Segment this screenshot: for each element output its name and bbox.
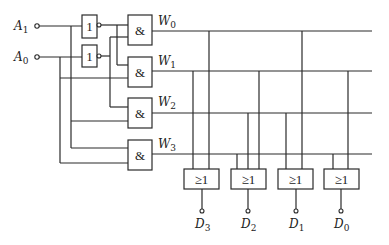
bit-lines xyxy=(193,31,348,169)
input-a1-label: A1 xyxy=(13,19,28,35)
and-gate-w0: & W0 xyxy=(128,14,176,45)
or-gate-d1-symbol: ≥1 xyxy=(289,172,303,187)
w2-label: W2 xyxy=(158,95,176,111)
or-gate-d0-symbol: ≥1 xyxy=(335,172,349,187)
input-a0-terminal xyxy=(35,55,39,59)
not-gate-a0: 1 xyxy=(82,45,101,67)
or-gate-d3: ≥1 D3 xyxy=(184,169,219,233)
output-d3-label: D3 xyxy=(194,217,211,233)
output-d3-terminal xyxy=(200,209,204,213)
output-d2-label: D2 xyxy=(240,217,256,233)
output-d1-label: D1 xyxy=(288,217,304,233)
output-d0-label: D0 xyxy=(333,217,350,233)
or-gate-d2: ≥1 D2 xyxy=(231,169,266,233)
and-gate-w2: & W2 xyxy=(128,95,176,128)
and-gate-w3-symbol: & xyxy=(135,148,145,163)
and-gate-w1-symbol: & xyxy=(135,65,145,80)
or-gate-d1: ≥1 D1 xyxy=(278,169,313,233)
or-gate-d3-symbol: ≥1 xyxy=(195,172,209,187)
input-a0-label: A0 xyxy=(13,50,29,66)
output-d0-terminal xyxy=(339,209,343,213)
word-lines xyxy=(152,31,372,154)
w1-label: W1 xyxy=(158,54,176,70)
input-a1-terminal xyxy=(35,24,39,28)
output-d1-terminal xyxy=(294,209,298,213)
decoder-circuit-diagram: A1 A0 1 1 xyxy=(0,0,389,245)
w3-label: W3 xyxy=(158,137,176,153)
or-gate-d2-symbol: ≥1 xyxy=(242,172,256,187)
inversion-bubble xyxy=(97,54,101,58)
and-gate-w0-symbol: & xyxy=(135,23,145,38)
and-gate-w2-symbol: & xyxy=(135,106,145,121)
not-gate-a1: 1 xyxy=(82,15,101,38)
or-gate-d0: ≥1 D0 xyxy=(324,169,359,233)
output-d2-terminal xyxy=(246,209,250,213)
not-gate-a0-symbol: 1 xyxy=(86,49,93,64)
not-gate-a1-symbol: 1 xyxy=(86,19,93,34)
input-a1: A1 xyxy=(13,19,39,35)
input-a0: A0 xyxy=(13,50,39,66)
w0-label: W0 xyxy=(158,14,176,30)
inversion-bubble xyxy=(97,23,101,27)
